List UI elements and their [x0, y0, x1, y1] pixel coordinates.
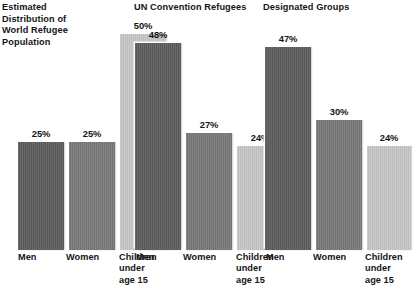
chart-panel-world-refugee-population: Estimated Distribution of World Refugee …: [0, 0, 126, 292]
bar-slot-men: 47%: [265, 0, 311, 250]
panel-plot-area: 48% 27% 24%: [128, 0, 254, 250]
category-label-men: Men: [266, 252, 312, 263]
bar-slot-children: 24%: [367, 0, 411, 250]
category-label-children: Children under age 15: [365, 252, 417, 286]
bar-slot-women: 27%: [186, 0, 232, 250]
bar-slot-men: 25%: [18, 0, 64, 250]
bar-value-label-women: 27%: [186, 119, 232, 130]
bar-women[interactable]: [186, 133, 232, 250]
bar-women[interactable]: [316, 120, 362, 250]
bar-men[interactable]: [265, 47, 311, 250]
category-label-women: Women: [313, 252, 365, 263]
bar-men[interactable]: [18, 142, 64, 250]
bar-slot-men: 48%: [135, 0, 181, 250]
bar-children[interactable]: [367, 146, 411, 250]
bar-value-label-men: 47%: [265, 33, 311, 44]
panel-plot-area: 25% 25% 50%: [0, 0, 126, 250]
bar-women[interactable]: [69, 142, 115, 250]
panel-plot-area: 47% 30% 24%: [258, 0, 381, 250]
category-label-men: Men: [18, 252, 66, 263]
bar-slot-women: 25%: [69, 0, 115, 250]
chart-panel-designated-groups: Designated Groups 47% 30% 24% Men Women …: [258, 0, 381, 292]
bar-value-label-men: 25%: [18, 128, 64, 139]
bar-value-label-men: 48%: [135, 29, 181, 40]
bar-slot-women: 30%: [316, 0, 362, 250]
bar-value-label-women: 25%: [69, 128, 115, 139]
bar-value-label-women: 30%: [316, 106, 362, 117]
category-label-women: Women: [183, 252, 235, 263]
bar-men[interactable]: [135, 43, 181, 250]
bar-value-label-children: 24%: [367, 132, 411, 143]
category-label-women: Women: [66, 252, 118, 263]
chart-panel-un-convention-refugees: UN Convention Refugees 48% 27% 24% Men W…: [128, 0, 254, 292]
category-label-men: Men: [136, 252, 182, 263]
